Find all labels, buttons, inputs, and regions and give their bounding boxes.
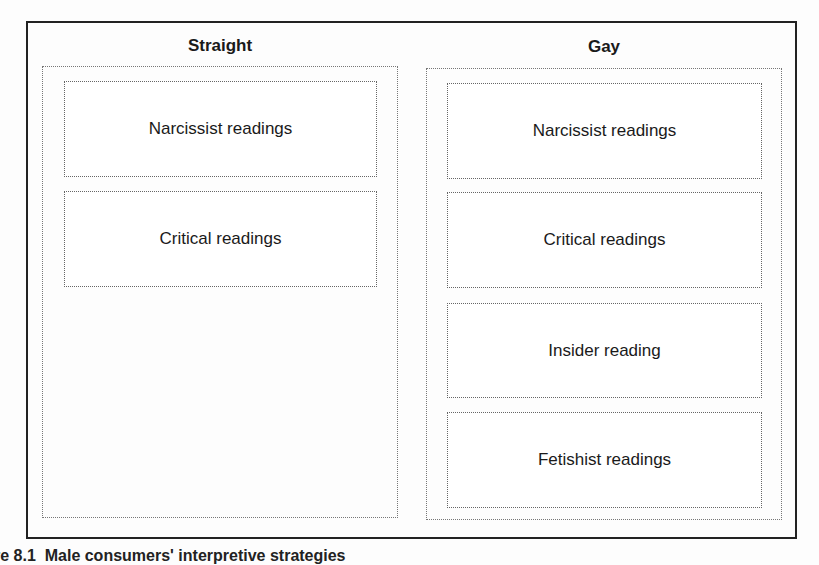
box-label: Critical readings [160,229,282,249]
box-label: Insider reading [548,341,660,361]
column-title-straight: Straight [42,36,398,56]
box-straight-critical: Critical readings [64,191,377,287]
column-gay: Narcissist readings Critical readings In… [426,68,782,520]
figure-caption: re 8.1 Male consumers' interpretive stra… [0,547,346,565]
caption-label: re 8.1 [0,547,36,564]
column-straight: Narcissist readings Critical readings [42,66,398,518]
box-label: Fetishist readings [538,450,671,470]
box-straight-narcissist: Narcissist readings [64,81,377,177]
box-label: Narcissist readings [149,119,293,139]
box-gay-narcissist: Narcissist readings [447,83,762,179]
box-label: Narcissist readings [533,121,677,141]
box-label: Critical readings [544,230,666,250]
caption-text: Male consumers' interpretive strategies [45,547,346,564]
box-gay-critical: Critical readings [447,192,762,288]
column-title-gay: Gay [426,37,782,57]
box-gay-insider: Insider reading [447,303,762,398]
box-gay-fetishist: Fetishist readings [447,412,762,508]
